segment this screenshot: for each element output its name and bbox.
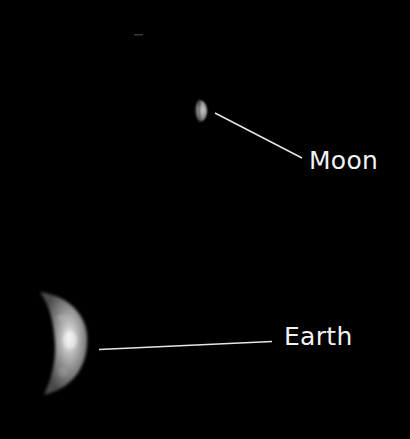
earth-label: Earth [284, 324, 353, 349]
distant-speck [134, 34, 143, 36]
earth-pointer-line [99, 342, 272, 350]
space-image: Moon Earth [0, 0, 410, 439]
earth-cloud [58, 367, 68, 377]
moon-body [199, 102, 206, 120]
celestial-bodies [0, 0, 410, 439]
earth-cloud-highlight [63, 331, 77, 349]
moon-label: Moon [309, 148, 378, 173]
earth-cloud [57, 314, 67, 322]
moon-pointer-line [215, 113, 302, 158]
